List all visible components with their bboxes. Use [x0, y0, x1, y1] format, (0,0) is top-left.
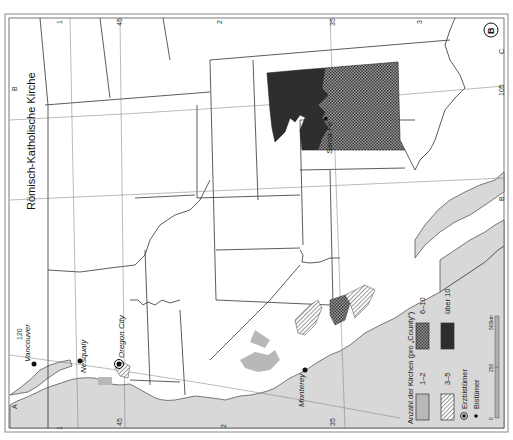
lon-label-105: 105: [498, 84, 505, 96]
grid-num-bottom-45: 45: [116, 418, 123, 426]
vancouver-dot: [32, 362, 37, 367]
lon-label-120: 120: [16, 328, 23, 340]
grid-num-top-2: 2: [216, 20, 223, 24]
grid-letter-a: A: [11, 404, 18, 409]
legend-swatch-over10: [441, 323, 454, 349]
city-label-oregon-city: Oregon City: [117, 314, 126, 358]
city-label-monterey: Monterey: [297, 373, 306, 407]
panel-badge: B: [486, 27, 496, 34]
legend-label-6to10: 6–10: [418, 297, 427, 314]
city-label-santa-fe: Santa Fe: [325, 121, 334, 154]
scale-label-0: 0: [488, 417, 494, 420]
grid-num-top-35: 35: [329, 18, 336, 26]
legend-erzbistum-dot: [462, 414, 466, 418]
grid-num-bottom-35: 35: [329, 418, 336, 426]
legend-swatch-1to2: [416, 394, 429, 420]
oregon-city-dot: [117, 362, 122, 367]
grid-num-top-45: 45: [116, 18, 123, 26]
santa-fe-dot: [324, 117, 328, 121]
monterey-dot: [303, 368, 308, 373]
scale-label-500: 500km: [488, 315, 494, 330]
grid-letter-b-left: B: [11, 86, 18, 91]
legend-swatch-3to5: [441, 394, 454, 420]
county-1to2-oregon: [98, 377, 112, 385]
grid-num-top-1: 1: [56, 20, 63, 24]
legend-label-over10: über 10: [443, 289, 452, 314]
grid-num-bottom-2: 2: [220, 424, 227, 428]
grid-num-top-3: 3: [416, 20, 423, 24]
scale-label-250: 250: [488, 363, 494, 372]
legend-label-erzbistumer: Erzbistümer: [460, 368, 469, 409]
legend-label-3to5: 3–5: [443, 372, 452, 385]
legend-label-1to2: 1–2: [418, 372, 427, 385]
city-label-vancouver: Vancouver: [23, 324, 32, 362]
grid-letter-c: C: [498, 49, 505, 54]
grid-letter-b-right: B: [498, 196, 505, 201]
legend-heading: Anzahl der Kirchen (pro „County“): [406, 311, 415, 424]
map-title: Römisch-Katholische Kirche: [25, 72, 37, 210]
legend-swatch-6to10: [416, 323, 429, 349]
legend-bistum-dot: [474, 414, 478, 418]
church-map: Vancouver Nesqualy Oregon City Monterey …: [0, 0, 513, 440]
grid-num-bottom-1: 1: [56, 426, 63, 430]
city-label-nesqualy: Nesqualy: [79, 339, 88, 373]
legend-label-bistumer: Bistümer: [472, 379, 481, 409]
